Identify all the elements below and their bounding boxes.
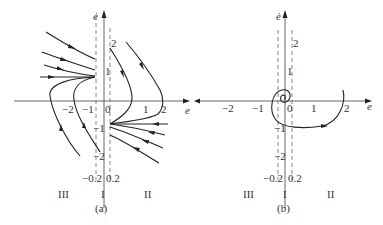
- x-tick-label: −1: [82, 103, 94, 115]
- x-tick-label: 2: [344, 102, 350, 114]
- panel-b: ė e −2 −1 0 1 2 2 1 −1 −2 −0.2 0.2 III I…: [194, 10, 372, 215]
- y-axis-arrow-icon: [283, 10, 288, 18]
- y-tick-label: 1: [105, 65, 111, 77]
- trajectory-arrow-icon: [48, 75, 55, 79]
- x-tick-label: 1: [143, 103, 149, 115]
- region-label-I: I: [101, 188, 105, 200]
- x-axis-label: e: [367, 100, 372, 112]
- y-axis-arrow-icon: [102, 10, 107, 18]
- boundary-label-pos: 0.2: [288, 172, 302, 184]
- trajectory-arrow-icon: [60, 57, 68, 61]
- y-axis-label: ė: [276, 10, 281, 22]
- x-tick-label: −1: [252, 102, 264, 114]
- trajectory-arrow-icon: [68, 44, 76, 49]
- x-axis-arrow-icon: [183, 99, 190, 104]
- trajectory-line: [110, 48, 132, 124]
- trajectory-arrow-icon: [152, 122, 159, 126]
- x-axis-label: e: [185, 104, 190, 116]
- panel-caption: (b): [277, 202, 290, 215]
- x-tick-label: 0: [105, 103, 111, 115]
- phase-portrait-figure: ė e −2 −1 0 1 2 2 1 −1 −2 −0.2 0.2 III I…: [0, 0, 383, 225]
- y-tick-label: −2: [274, 150, 286, 162]
- y-tick-label: 1: [287, 65, 293, 77]
- trajectory-arrow-icon: [57, 66, 64, 70]
- region-label-II: II: [327, 188, 335, 200]
- boundary-label-pos: 0.2: [106, 172, 120, 184]
- x-tick-label: 1: [311, 102, 317, 114]
- y-tick-label: −1: [93, 122, 105, 134]
- trajectory-arrow-icon: [142, 140, 149, 144]
- x-axis-left-arrow-icon: [194, 99, 200, 104]
- x-tick-label: −2: [62, 103, 74, 115]
- y-tick-label: 2: [293, 37, 299, 49]
- trajectory-line: [110, 127, 163, 148]
- region-label-II: II: [144, 188, 152, 200]
- y-axis-label: ė: [93, 10, 98, 22]
- x-tick-label: 0: [287, 102, 293, 114]
- region-label-III: III: [243, 188, 254, 200]
- panel-caption: (a): [95, 202, 108, 215]
- y-tick-label: −2: [93, 150, 105, 162]
- boundary-label-neg: −0.2: [263, 172, 283, 184]
- trajectory-line: [110, 42, 163, 124]
- y-tick-label: 2: [111, 37, 117, 49]
- region-label-III: III: [58, 188, 69, 200]
- trajectory-line: [50, 77, 95, 156]
- x-tick-label: −2: [222, 102, 234, 114]
- panel-a: ė e −2 −1 0 1 2 2 1 −1 −2 −0.2 0.2 III I…: [14, 10, 190, 215]
- boundary-label-neg: −0.2: [82, 172, 102, 184]
- trajectory-line: [44, 65, 95, 76]
- region-label-I: I: [283, 188, 287, 200]
- trajectory-line: [110, 135, 159, 163]
